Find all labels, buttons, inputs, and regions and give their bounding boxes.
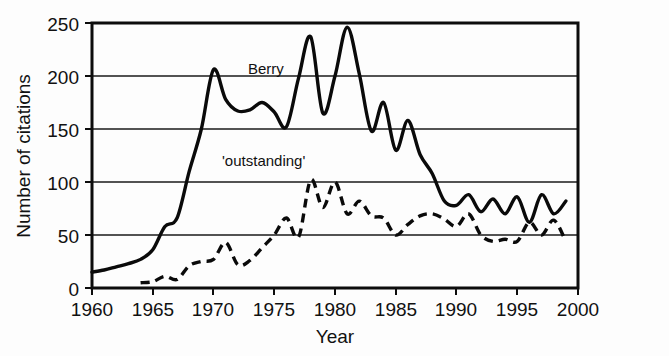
- xtick-label-1965: 1965: [132, 299, 174, 320]
- series-group: [92, 27, 566, 282]
- ytick-label-100: 100: [47, 173, 79, 194]
- xtick-label-1990: 1990: [435, 299, 477, 320]
- chart-svg: 250 200 150 100 50 0 1960 1965 1970 1975…: [0, 0, 669, 356]
- grid-lines: [92, 76, 578, 235]
- series-line-outstanding: [141, 179, 566, 282]
- y-axis-title: Number of citations: [13, 74, 34, 238]
- ytick-label-200: 200: [47, 67, 79, 88]
- x-tick-labels: 1960 1965 1970 1975 1980 1985 1990 1995 …: [71, 299, 599, 320]
- ytick-label-150: 150: [47, 120, 79, 141]
- xtick-label-1985: 1985: [375, 299, 417, 320]
- xtick-label-2000: 2000: [557, 299, 599, 320]
- xtick-label-1995: 1995: [496, 299, 538, 320]
- y-tick-labels: 250 200 150 100 50 0: [47, 14, 79, 300]
- xtick-label-1970: 1970: [192, 299, 234, 320]
- xtick-label-1980: 1980: [314, 299, 356, 320]
- citation-trend-chart: 250 200 150 100 50 0 1960 1965 1970 1975…: [0, 0, 669, 356]
- plot-frame: [92, 23, 578, 288]
- series-annotation-berry: Berry: [248, 60, 284, 77]
- x-axis-title: Year: [316, 326, 355, 347]
- ytick-label-250: 250: [47, 14, 79, 35]
- series-annotation-outstanding: 'outstanding': [222, 152, 305, 169]
- ytick-label-50: 50: [58, 226, 79, 247]
- ytick-label-0: 0: [68, 279, 79, 300]
- xtick-label-1975: 1975: [253, 299, 295, 320]
- xtick-label-1960: 1960: [71, 299, 113, 320]
